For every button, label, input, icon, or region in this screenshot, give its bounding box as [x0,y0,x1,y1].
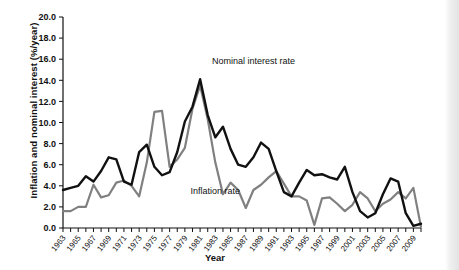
y-axis-tick-label: 14.0 [38,76,56,86]
x-axis-tick-label: 2003 [354,233,372,253]
x-axis-tick-label: 2007 [385,233,403,253]
series-line-nominal-interest-rate [63,79,421,226]
annotation-nominal-interest-rate: Nominal interest rate [212,56,295,66]
x-axis-tick-label: 1993 [278,233,296,253]
x-axis-tick-label: 1969 [95,233,113,253]
chart-figure: Inflation and nominal interest (%/year) … [0,0,459,270]
x-axis-tick-label: 2005 [369,233,387,253]
line-chart-plot: 0.02.04.06.08.010.012.014.016.018.020.0 … [0,0,459,270]
x-axis-tick-label: 1975 [141,233,159,253]
x-axis-tick-labels: 1963196519671969197119731975197719791981… [50,233,419,253]
y-axis-tick-label: 16.0 [38,54,56,64]
y-axis-tick-label: 6.0 [43,160,56,170]
y-axis-tick-label: 8.0 [43,139,56,149]
y-axis-tick-label: 20.0 [38,12,56,22]
x-axis-tick-label: 1967 [80,233,98,253]
x-axis-tick-label: 1995 [293,233,311,253]
x-axis-tick-label: 1997 [309,233,327,253]
series-line-inflation-rate [63,86,421,227]
y-axis-tick-label: 2.0 [43,202,56,212]
y-axis-tick-label: 18.0 [38,33,56,43]
x-axis-tick-label: 1999 [324,233,342,253]
annotation-inflation-rate: Inflation rate [191,186,241,196]
y-axis-tick-labels: 0.02.04.06.08.010.012.014.016.018.020.0 [38,12,56,233]
x-axis-tick-label: 1981 [187,233,205,253]
y-axis-tick-label: 12.0 [38,97,56,107]
x-axis-tick-label: 1979 [171,233,189,253]
y-axis-tick-label: 10.0 [38,118,56,128]
y-axis-tick-label: 4.0 [43,181,56,191]
x-axis-tick-label: 1983 [202,233,220,253]
x-axis-tick-label: 1973 [126,233,144,253]
x-axis-tick-label: 1965 [65,233,83,253]
x-axis-tick-label: 1971 [110,233,128,253]
x-axis-tick-label: 1977 [156,233,174,253]
x-axis-tick-label: 1991 [263,233,281,253]
x-axis-tick-label: 1985 [217,233,235,253]
x-axis-tick-label: 1989 [248,233,266,253]
x-axis-tick-label: 2001 [339,233,357,253]
x-axis-tick-label: 2009 [400,233,418,253]
x-axis-tick-label: 1987 [232,233,250,253]
x-axis-tick-label: 1963 [50,233,68,253]
y-axis-tick-label: 0.0 [43,223,56,233]
